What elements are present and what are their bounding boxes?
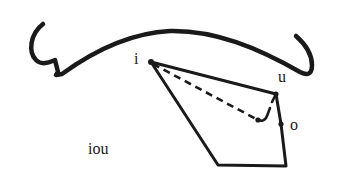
trajectory-end-dot (255, 117, 260, 122)
label-i: i (134, 50, 139, 67)
label-u: u (278, 68, 286, 85)
vowel-diagram: i u o iou (0, 0, 341, 180)
vertex-o-dot (278, 121, 283, 126)
vertex-u-dot (273, 91, 278, 96)
trajectory-hook (257, 96, 275, 121)
label-o: o (290, 116, 298, 133)
vowel-quadrilateral (151, 62, 286, 166)
label-iou: iou (88, 140, 108, 157)
vertex-i-dot (148, 59, 154, 65)
